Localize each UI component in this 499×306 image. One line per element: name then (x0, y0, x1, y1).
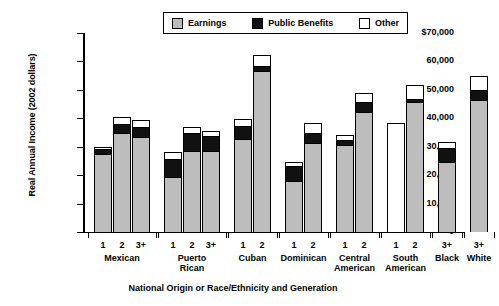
x-axis-title: National Origin or Race/Ethnicity and Ge… (0, 283, 466, 293)
bar-segment-earnings (304, 143, 322, 232)
generation-label: 3+ (198, 240, 224, 250)
x-tick-mark (464, 232, 465, 238)
bar-segment-public-benefits (183, 133, 201, 151)
bar-segment-earnings (132, 137, 150, 232)
bar-segment-earnings (183, 151, 201, 232)
bar-mexican-gen2[interactable] (113, 117, 131, 232)
group-label-white: White (434, 253, 499, 263)
bar-segment-earnings (438, 162, 456, 233)
bar-segment-earnings (164, 177, 182, 232)
generation-label: 3+ (434, 240, 460, 250)
x-tick-mark (328, 232, 329, 238)
x-tick-mark (430, 232, 431, 238)
bar-segment-other (470, 76, 488, 90)
bar-segment-earnings (253, 71, 271, 232)
bar-central-american-gen2[interactable] (355, 93, 373, 232)
bar-dominican-gen2[interactable] (304, 123, 322, 232)
legend-swatch-icon (359, 18, 370, 29)
legend-label: Other (375, 18, 399, 28)
bar-segment-public-benefits (438, 148, 456, 161)
bar-puerto-rican-gen3plus[interactable] (202, 131, 220, 232)
x-tick-mark (330, 232, 331, 238)
bar-segment-public-benefits (304, 133, 322, 143)
bar-puerto-rican-gen2[interactable] (183, 127, 201, 232)
legend-label: Public Benefits (268, 18, 333, 28)
legend-swatch-icon (252, 18, 263, 29)
y-tick-mark (77, 232, 83, 233)
legend-item-public-benefits[interactable]: Public Benefits (252, 18, 333, 29)
bar-segment-other (406, 85, 424, 99)
x-tick-mark (494, 232, 495, 238)
bar-segment-other (387, 123, 405, 232)
x-tick-mark (226, 232, 227, 238)
bar-segment-other (234, 119, 252, 126)
x-tick-mark (379, 232, 380, 238)
bar-segment-public-benefits (285, 166, 303, 181)
bar-segment-earnings (94, 154, 112, 232)
bar-segment-public-benefits (132, 127, 150, 138)
bar-segment-public-benefits (470, 90, 488, 101)
bar-segment-public-benefits (164, 159, 182, 177)
bar-segment-earnings (202, 151, 220, 232)
bar-mexican-gen3plus[interactable] (132, 120, 150, 232)
bar-segment-public-benefits (234, 126, 252, 139)
legend-label: Earnings (188, 18, 227, 28)
x-tick-mark (156, 232, 157, 238)
bar-segment-public-benefits (113, 124, 131, 133)
bar-cuban-gen1[interactable] (234, 119, 252, 232)
x-tick-mark (158, 232, 159, 238)
x-tick-mark (381, 232, 382, 238)
generation-label: 2 (249, 240, 275, 250)
bar-south-american-gen1[interactable] (387, 123, 405, 232)
bar-segment-public-benefits (355, 102, 373, 111)
bar-central-american-gen1[interactable] (336, 135, 354, 232)
generation-label: 2 (351, 240, 377, 250)
bar-segment-other (355, 93, 373, 102)
x-tick-mark (228, 232, 229, 238)
generation-label: 3+ (466, 240, 492, 250)
bar-segment-other (253, 55, 271, 66)
x-tick-mark (279, 232, 280, 238)
bar-segment-public-benefits (202, 136, 220, 150)
bar-black-gen3plus[interactable] (438, 142, 456, 232)
bar-segment-earnings (336, 145, 354, 232)
generation-label: 3+ (128, 240, 154, 250)
bar-segment-earnings (406, 102, 424, 232)
bar-segment-earnings (113, 133, 131, 233)
bar-series-container (83, 33, 464, 232)
bar-dominican-gen1[interactable] (285, 162, 303, 232)
bar-puerto-rican-gen1[interactable] (164, 152, 182, 232)
bar-mexican-gen1[interactable] (94, 147, 112, 232)
bar-segment-other (304, 123, 322, 133)
legend-swatch-icon (172, 18, 183, 29)
generation-label: 2 (300, 240, 326, 250)
bar-white-gen3plus[interactable] (470, 76, 488, 232)
plot-area: $70,00060,00050,00040,00030,00020,00010,… (83, 33, 464, 232)
x-tick-mark (277, 232, 278, 238)
bar-cuban-gen2[interactable] (253, 55, 271, 232)
bar-segment-earnings (470, 100, 488, 232)
bar-south-american-gen2[interactable] (406, 85, 424, 232)
legend-item-earnings[interactable]: Earnings (172, 18, 227, 29)
x-tick-mark (88, 232, 89, 238)
bar-segment-earnings (285, 181, 303, 232)
generation-label: 2 (402, 240, 428, 250)
bar-segment-earnings (234, 139, 252, 232)
x-tick-mark (462, 232, 463, 238)
legend-item-other[interactable]: Other (359, 18, 399, 29)
y-axis-title: Real Annual Income (2002 dollars) (27, 35, 37, 215)
chart-legend: EarningsPublic BenefitsOther (163, 12, 408, 34)
bar-segment-earnings (355, 112, 373, 232)
x-tick-mark (432, 232, 433, 238)
